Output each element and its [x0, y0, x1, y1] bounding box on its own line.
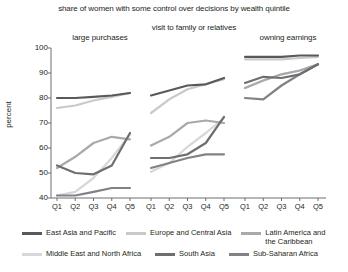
series-line: [151, 154, 224, 168]
legend-row-1: East Asia and PacificEurope and Central …: [22, 228, 325, 246]
legend-color-swatch: [126, 232, 146, 235]
legend-color-swatch: [229, 253, 249, 256]
legend-item[interactable]: Middle East and North Africa: [22, 249, 141, 258]
series-line: [57, 93, 130, 98]
legend-label: Middle East and North Africa: [46, 249, 141, 258]
legend-label: East Asia and Pacific: [46, 228, 116, 237]
legend-item[interactable]: East Asia and Pacific: [22, 228, 116, 237]
legend-item[interactable]: Sub-Saharan Africa: [229, 249, 318, 258]
series-line: [57, 133, 130, 174]
legend-color-swatch: [241, 232, 261, 235]
series-line: [151, 118, 224, 172]
legend-label: Latin America and the Caribbean: [265, 228, 325, 246]
legend-label: Sub-Saharan Africa: [253, 249, 318, 258]
legend-label: Europe and Central Asia: [150, 228, 231, 237]
chart-container: share of women with some control over de…: [0, 0, 348, 272]
legend-row-2: Middle East and North AfricaSouth AsiaSu…: [22, 249, 318, 258]
legend-item[interactable]: Europe and Central Asia: [126, 228, 231, 237]
legend-item[interactable]: Latin America and the Caribbean: [241, 228, 325, 246]
legend-label: South Asia: [179, 249, 215, 258]
series-line: [151, 78, 224, 96]
legend-color-swatch: [22, 253, 42, 256]
legend-color-swatch: [22, 232, 42, 235]
series-line: [151, 79, 224, 113]
legend-color-swatch: [155, 253, 175, 256]
legend-item[interactable]: South Asia: [155, 249, 215, 258]
